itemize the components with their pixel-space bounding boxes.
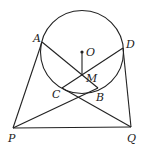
- tangent-qd: [123, 48, 131, 127]
- segment-pq: [13, 127, 131, 128]
- label-p: P: [7, 132, 16, 145]
- center-dot: [80, 50, 83, 53]
- label-c: C: [52, 88, 61, 101]
- label-o: O: [86, 46, 95, 59]
- label-a: A: [32, 32, 41, 45]
- label-b: B: [95, 91, 104, 104]
- label-d: D: [125, 38, 135, 51]
- label-q: Q: [127, 132, 136, 145]
- label-m: M: [85, 72, 98, 85]
- tangent-pa: [13, 42, 42, 128]
- geometry-diagram: A O D M C B P Q: [0, 0, 144, 147]
